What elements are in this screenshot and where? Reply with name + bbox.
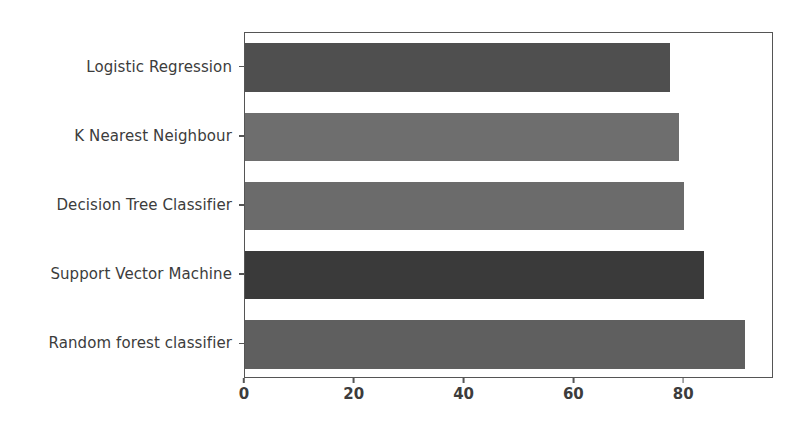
y-tick-random-forest-classifier: Random forest classifier: [48, 309, 244, 378]
x-tick-mark-icon: [573, 378, 575, 383]
y-tick-label: Logistic Regression: [86, 58, 239, 76]
y-axis-tick-labels: Logistic Regression K Nearest Neighbour …: [0, 32, 244, 378]
y-tick-decision-tree-classifier: Decision Tree Classifier: [56, 170, 244, 239]
x-tick-label: 0: [239, 385, 249, 403]
x-tick-mark-icon: [243, 378, 245, 383]
x-tick-label: 60: [563, 385, 584, 403]
bar-k-nearest-neighbour[interactable]: [245, 113, 679, 161]
bar-decision-tree-classifier[interactable]: [245, 182, 684, 230]
bar-row: [245, 43, 772, 91]
bar-random-forest-classifier[interactable]: [245, 320, 745, 368]
x-tick-mark-icon: [463, 378, 465, 383]
bar-row: [245, 113, 772, 161]
x-tick-label: 80: [673, 385, 694, 403]
x-tick-mark-icon: [682, 378, 684, 383]
bar-row: [245, 320, 772, 368]
y-tick-label: K Nearest Neighbour: [74, 127, 239, 145]
y-tick-label: Random forest classifier: [48, 334, 239, 352]
x-tick-20: 20: [343, 378, 364, 403]
bars-layer: [245, 33, 772, 377]
y-tick-label: Decision Tree Classifier: [56, 196, 239, 214]
bar-chart-figure: Logistic Regression K Nearest Neighbour …: [0, 0, 807, 429]
x-tick-label: 40: [453, 385, 474, 403]
x-tick-0: 0: [239, 378, 249, 403]
y-tick-label: Support Vector Machine: [50, 265, 239, 283]
x-axis-tick-labels: 0 20 40 60 80: [0, 378, 807, 418]
y-tick-k-nearest-neighbour: K Nearest Neighbour: [74, 101, 244, 170]
y-tick-support-vector-machine: Support Vector Machine: [50, 240, 244, 309]
bar-row: [245, 251, 772, 299]
bar-logistic-regression[interactable]: [245, 43, 670, 91]
x-tick-60: 60: [563, 378, 584, 403]
y-tick-logistic-regression: Logistic Regression: [86, 32, 244, 101]
x-tick-80: 80: [673, 378, 694, 403]
bar-support-vector-machine[interactable]: [245, 251, 704, 299]
x-tick-mark-icon: [353, 378, 355, 383]
x-tick-label: 20: [343, 385, 364, 403]
plot-area: [244, 32, 773, 378]
x-tick-40: 40: [453, 378, 474, 403]
bar-row: [245, 182, 772, 230]
